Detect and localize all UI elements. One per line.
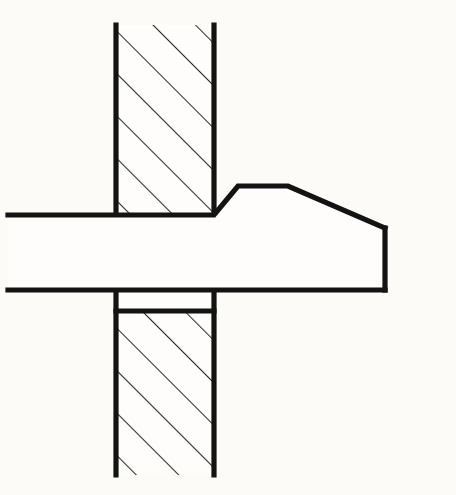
sectional-drawing-svg — [0, 0, 456, 495]
upper-plate — [116, 25, 214, 215]
technical-drawing-canvas — [0, 0, 456, 495]
lower-plate — [116, 290, 214, 475]
lower-plate-hatching — [116, 311, 214, 475]
upper-plate-hatching — [116, 25, 214, 215]
